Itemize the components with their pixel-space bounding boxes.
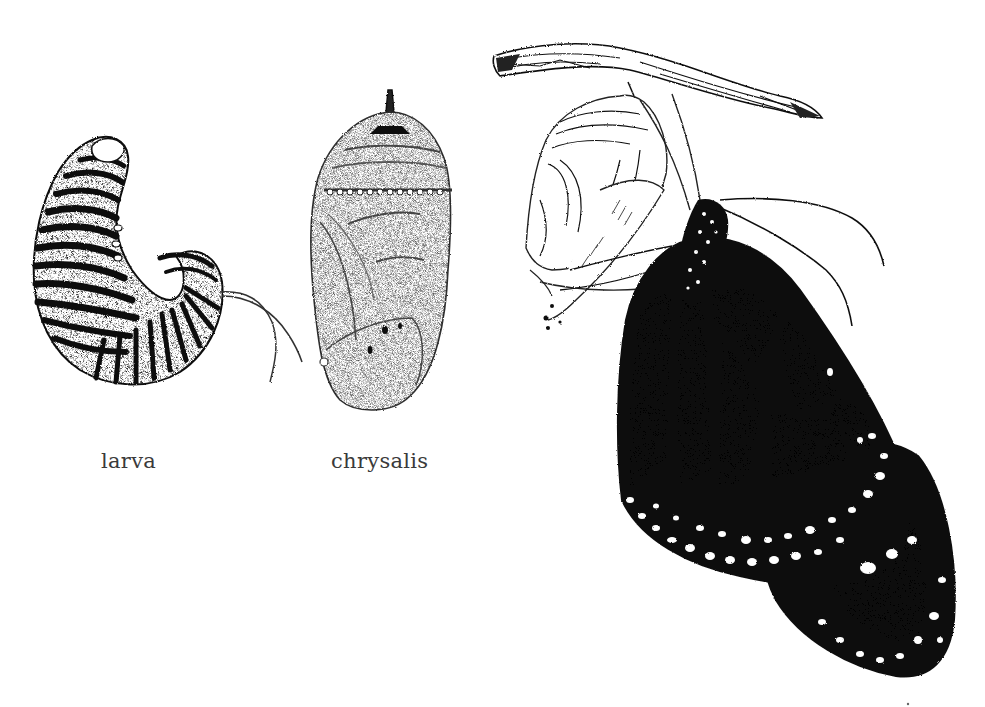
- chrysalis-label: chrysalis: [331, 449, 428, 473]
- adult-butterfly-drawing: [560, 199, 955, 677]
- life-cycle-illustration: [0, 0, 985, 707]
- larva-label: larva: [101, 449, 156, 473]
- chrysalis-drawing: [311, 90, 452, 410]
- larva-drawing: [34, 137, 302, 385]
- twig-drawing: [493, 44, 822, 118]
- stray-mark: [907, 703, 909, 705]
